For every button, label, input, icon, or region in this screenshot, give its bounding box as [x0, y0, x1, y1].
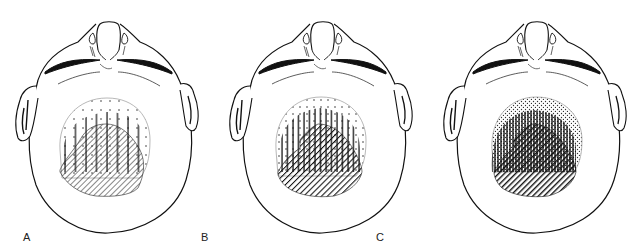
- head-illustration-c: [428, 0, 642, 247]
- panel-label-b-text: B: [201, 232, 208, 243]
- panel-label-c: C: [376, 232, 384, 243]
- panel-label-a: A: [23, 232, 30, 243]
- panel-c: C: [428, 0, 642, 247]
- head-illustration-a: [0, 0, 214, 247]
- head-illustration-b: [214, 0, 428, 247]
- figure: A B C: [0, 0, 642, 247]
- panel-b: B: [214, 0, 428, 247]
- panel-a: A: [0, 0, 214, 247]
